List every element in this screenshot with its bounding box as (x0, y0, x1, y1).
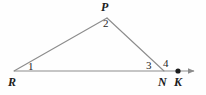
geometry-figure: R P N K 1 2 3 4 (0, 0, 206, 95)
point-K-dot (175, 68, 180, 73)
angle-label-4: 4 (163, 58, 169, 69)
point-label-P: P (101, 1, 109, 13)
point-label-R: R (8, 76, 16, 88)
segment-PN (107, 18, 164, 71)
angle-label-3: 3 (146, 60, 152, 71)
angle-label-2: 2 (103, 18, 109, 29)
angle-label-1: 1 (28, 61, 34, 72)
point-label-N: N (158, 76, 167, 88)
point-label-K: K (174, 76, 182, 88)
